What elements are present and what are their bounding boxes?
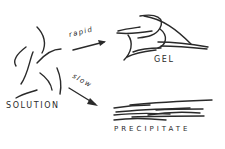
solution-chains-graphic xyxy=(15,27,61,98)
precipitate-aligned-graphic xyxy=(114,100,212,120)
gel-label: GEL xyxy=(154,55,175,64)
gel-network-graphic xyxy=(117,15,208,60)
precipitate-label: PRECIPITATE xyxy=(114,125,190,133)
arrow-rapid xyxy=(73,40,106,50)
diagram-canvas xyxy=(0,0,225,149)
solution-label: SOLUTION xyxy=(6,101,60,110)
arrow-slow xyxy=(69,88,98,106)
diagram: SOLUTION GEL PRECIPITATE rapid slow xyxy=(0,0,225,149)
